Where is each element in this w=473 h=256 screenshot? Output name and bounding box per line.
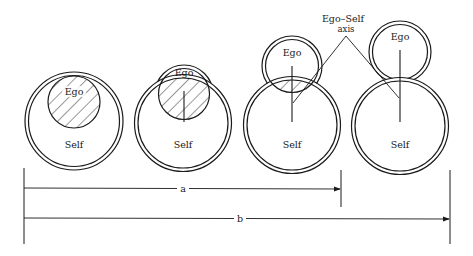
self-label: Self [283, 139, 303, 150]
ego-label: Ego [283, 47, 302, 58]
self-label: Self [174, 139, 194, 150]
annotation-line2: axis [338, 24, 355, 34]
stage-2: Ego Self [135, 65, 232, 172]
ego-self-diagram: Ego Self Ego Self Ego Self Ego [0, 0, 473, 256]
dimension-a-left [24, 188, 177, 189]
ego-label: Ego [175, 67, 194, 78]
dimension-b-left [24, 218, 234, 219]
ego-circle [48, 76, 100, 128]
ego-label: Ego [65, 86, 84, 97]
dimension-b-right [246, 219, 449, 220]
dimension-a-label: a [180, 183, 186, 194]
dimension-lines: a b [24, 168, 450, 244]
annotation-line1: Ego–Self [322, 13, 366, 24]
stage-4: Ego Self [352, 21, 449, 175]
stage-1: Ego Self [25, 72, 123, 170]
ego-label: Ego [391, 31, 410, 42]
stage-3: Ego Self [244, 36, 341, 174]
self-label: Self [65, 139, 85, 150]
self-label: Self [391, 139, 411, 150]
dimension-b-label: b [237, 213, 243, 224]
dimension-a-right [189, 189, 340, 190]
